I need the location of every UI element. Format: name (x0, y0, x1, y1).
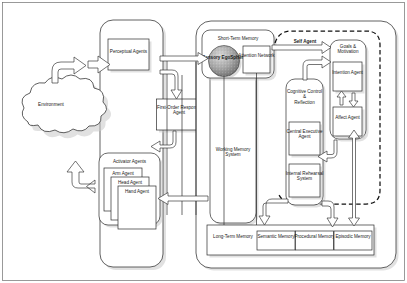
affect-agent-box[interactable] (333, 107, 362, 136)
perceptual-agents-label: Perceptual Agents (110, 49, 148, 54)
short-term-memory-label: Short-Term Memory (218, 36, 259, 41)
architecture-diagram: Perceptual Agents First-Order ResponseAg… (0, 0, 407, 283)
environment-cloud: Environment (22, 75, 111, 138)
long-term-memory-label: Long-Term Memory (213, 234, 254, 239)
working-memory-system-box[interactable] (210, 61, 256, 223)
arm-agent-label: Arm Agent (112, 171, 134, 176)
procedural-memory-label: Procedural Memory (294, 234, 335, 239)
goals-motivation-label: Goals &Motivation (338, 44, 359, 54)
attention-network-label: Attention Network (238, 53, 275, 58)
head-agent-label: Head Agent (118, 180, 143, 185)
affect-agent-label: Affect Agent (335, 115, 360, 120)
attention-network-box[interactable] (243, 46, 270, 73)
activator-agents-label: Activator Agents (113, 159, 147, 164)
self-agent-label: Self Agent (294, 39, 317, 44)
environment-label: Environment (38, 102, 65, 107)
perceptual-agents-box[interactable] (108, 39, 149, 70)
semantic-memory-label: Semantic Memory (257, 234, 295, 239)
arrow-activator-to-environment (67, 161, 95, 193)
hand-agent-label: Hand Agent (125, 189, 150, 194)
episodic-memory-label: Episodic Memory (335, 234, 371, 239)
intention-agent-box[interactable] (333, 62, 362, 91)
intention-agent-label: Intention Agent (332, 70, 363, 75)
